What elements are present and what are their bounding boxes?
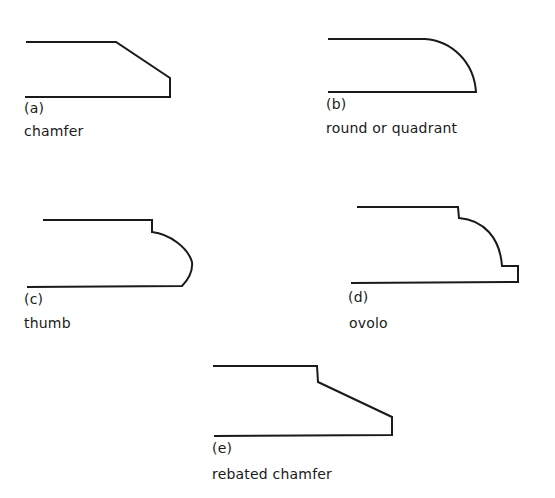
profile-e-name: rebated chamfer <box>212 466 332 482</box>
profile-a-name: chamfer <box>24 123 84 139</box>
profile-d-letter: (d) <box>348 289 368 305</box>
profile-e-letter: (e) <box>212 440 232 456</box>
profile-chamfer <box>25 42 170 97</box>
profile-b-letter: (b) <box>326 96 346 112</box>
profile-c-letter: (c) <box>24 291 43 307</box>
profile-thumb <box>27 220 192 287</box>
edge-profiles-diagram <box>0 0 555 498</box>
profile-b-name: round or quadrant <box>326 120 457 136</box>
profile-rebated-chamfer <box>213 366 392 436</box>
profile-c-name: thumb <box>24 315 71 331</box>
profile-d-name: ovolo <box>349 315 388 331</box>
profile-ovolo <box>351 207 518 283</box>
profile-a-letter: (a) <box>24 100 44 116</box>
profile-round-quadrant <box>328 39 476 92</box>
